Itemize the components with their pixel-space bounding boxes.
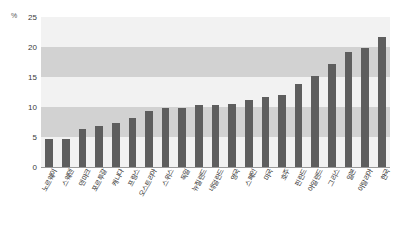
x-axis-label: 덴마크 — [77, 168, 93, 188]
x-axis-category-labels: 노르웨이스웨덴덴마크포르투갈캐나다프랑스오스트리아스위스독일뉴질랜드네덜란드영국… — [41, 168, 390, 240]
bar — [112, 123, 120, 167]
bar — [361, 48, 369, 167]
y-axis-tick-20: 20 — [28, 43, 37, 52]
x-axis-label: 이탈리아 — [357, 168, 375, 193]
plot-area — [41, 17, 390, 167]
y-axis-tick-15: 15 — [28, 73, 37, 82]
x-axis-label: 한국 — [379, 168, 392, 182]
bar — [295, 84, 303, 167]
x-axis-label: 그리스 — [326, 168, 342, 188]
bar — [328, 64, 336, 167]
bar — [145, 111, 153, 167]
x-axis-label: 네덜란드 — [207, 168, 225, 193]
x-axis-label: 포르투갈 — [91, 168, 109, 193]
bar — [212, 105, 220, 167]
x-axis-label: 아일랜드 — [307, 168, 325, 193]
x-axis-label: 일본 — [346, 168, 359, 182]
bar — [378, 37, 386, 167]
x-axis-label: 캐나다 — [110, 168, 126, 188]
bars-layer — [41, 17, 390, 167]
x-axis-label: 스웨덴 — [60, 168, 76, 188]
x-axis-label: 핀란드 — [293, 168, 309, 188]
y-axis-tick-25: 25 — [28, 13, 37, 22]
x-axis-label: 스위스 — [160, 168, 176, 188]
y-axis-tick-10: 10 — [28, 103, 37, 112]
y-axis-tick-0: 0 — [33, 163, 37, 172]
bar — [79, 129, 87, 167]
bar — [62, 139, 70, 167]
bar — [262, 97, 270, 167]
bar — [195, 105, 203, 167]
bar — [278, 95, 286, 167]
x-axis-label: 호주 — [279, 168, 292, 182]
bar — [162, 108, 170, 167]
x-axis-label: 미국 — [263, 168, 276, 182]
bar — [245, 100, 253, 167]
y-axis-tick-5: 5 — [33, 133, 37, 142]
x-axis-label: 노르웨이 — [41, 168, 59, 193]
bar — [311, 76, 319, 167]
bar — [178, 108, 186, 167]
bar — [45, 139, 53, 167]
y-axis-tick-labels: 0510152025 — [0, 0, 41, 240]
x-axis-label: 스페인 — [243, 168, 259, 188]
bar — [129, 118, 137, 167]
bar-chart: % 0510152025 노르웨이스웨덴덴마크포르투갈캐나다프랑스오스트리아스위… — [0, 0, 413, 240]
bar — [345, 52, 353, 167]
x-axis-label: 프랑스 — [127, 168, 143, 188]
x-axis-label: 뉴질랜드 — [191, 168, 209, 193]
bar — [228, 104, 236, 167]
bar — [95, 126, 103, 167]
x-axis-label: 독일 — [180, 168, 193, 182]
x-axis-label: 영국 — [229, 168, 242, 182]
